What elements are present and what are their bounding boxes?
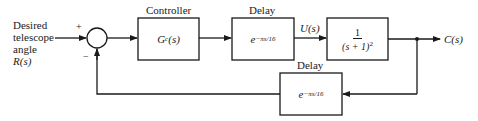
output-signal-label: C(s) bbox=[444, 33, 463, 45]
pickoff-point bbox=[415, 37, 419, 41]
summing-junction bbox=[87, 28, 107, 48]
input-label-line3: angle bbox=[13, 43, 37, 55]
input-label-line2: telescope bbox=[13, 31, 54, 43]
forward-delay-title: Delay bbox=[249, 4, 275, 16]
input-signal-label: R(s) bbox=[13, 55, 31, 67]
plus-sign: + bbox=[76, 21, 82, 33]
feedback-delay-transfer-function: e−πs/16 bbox=[280, 73, 342, 115]
plant-transfer-function: 1 (s + 1)2 bbox=[327, 18, 388, 60]
input-label-line1: Desired bbox=[13, 19, 47, 31]
minus-sign: − bbox=[83, 51, 89, 63]
control-signal-label: U(s) bbox=[300, 22, 320, 34]
controller-title: Controller bbox=[146, 4, 191, 16]
controller-transfer-function: Gc(s) bbox=[138, 18, 199, 60]
feedback-delay-title: Delay bbox=[297, 59, 323, 71]
forward-delay-transfer-function: e−πs/16 bbox=[232, 18, 294, 60]
